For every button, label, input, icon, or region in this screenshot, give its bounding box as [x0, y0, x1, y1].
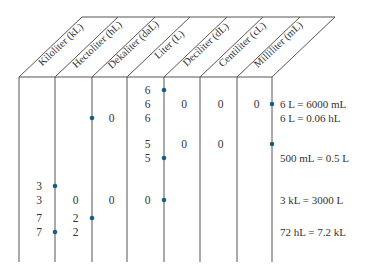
- cell-value: 6: [145, 84, 151, 96]
- cell-value: 7: [36, 212, 42, 224]
- decimal-point-dot: [90, 116, 95, 121]
- cell-value: 0: [218, 138, 224, 150]
- decimal-point-dot: [270, 142, 275, 147]
- cell-value: 7: [36, 226, 42, 238]
- cell-value: 2: [73, 212, 79, 224]
- cell-value: 0: [218, 98, 224, 110]
- cell-value: 5: [145, 152, 151, 164]
- decimal-point-dot: [162, 156, 167, 161]
- cell-value: 6: [145, 98, 151, 110]
- conversion-result: 72 hL = 7.2 kL: [280, 226, 346, 238]
- cell-value: 5: [145, 138, 151, 150]
- conversion-result: 3 kL = 3000 L: [280, 194, 344, 206]
- cell-value: 2: [73, 226, 79, 238]
- conversion-result: 6 L = 6000 mL: [280, 98, 347, 110]
- cell-value: 0: [109, 112, 115, 124]
- cell-value: 0: [109, 194, 115, 206]
- conversion-result: 6 L = 0.06 hL: [280, 112, 341, 124]
- decimal-point-dot: [53, 230, 58, 235]
- metric-volume-chart: Kiloliter (kL)Hectoliter (hL)Dekaliter (…: [0, 0, 371, 278]
- decimal-point-dot: [270, 102, 275, 107]
- cell-value: 3: [36, 194, 42, 206]
- cell-value: 0: [181, 138, 187, 150]
- decimal-point-dot: [53, 184, 58, 189]
- cell-value: 0: [254, 98, 260, 110]
- cell-value: 0: [145, 194, 151, 206]
- cell-value: 6: [145, 112, 151, 124]
- decimal-point-dot: [90, 216, 95, 221]
- conversion-result: 500 mL = 0.5 L: [280, 152, 349, 164]
- column-header-L: Liter (L): [152, 28, 187, 62]
- cell-value: 0: [181, 98, 187, 110]
- cell-value: 3: [36, 180, 42, 192]
- decimal-point-dot: [162, 198, 167, 203]
- decimal-point-dot: [162, 88, 167, 93]
- cell-value: 0: [73, 194, 79, 206]
